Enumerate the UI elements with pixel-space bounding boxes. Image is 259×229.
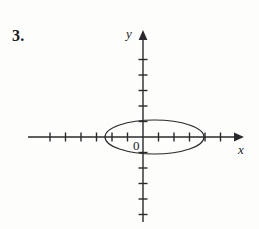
y-axis-group	[139, 34, 148, 222]
x-axis-label: x	[238, 143, 244, 156]
figure-root: 3. y x 0	[0, 0, 259, 229]
origin-label: 0	[133, 139, 140, 152]
y-axis-arrowhead	[139, 30, 148, 40]
y-axis-label: y	[126, 27, 132, 40]
x-axis-arrowhead	[234, 133, 244, 142]
